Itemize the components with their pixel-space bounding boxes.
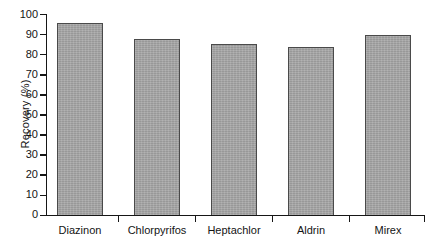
bar-mirex [365,35,411,216]
bar-heptachlor [211,44,257,216]
bar-chart-figure: Recovery (%) 0102030405060708090100 Diaz… [0,0,445,244]
y-axis-tick-label: 50 [4,109,38,120]
y-axis-tick-label: 90 [4,29,38,40]
y-axis-tick-label: 10 [4,189,38,200]
y-axis-tick-label-wrap: 70 [0,69,38,80]
y-axis-tick-label: 80 [4,49,38,60]
y-axis-tick-label-wrap: 90 [0,29,38,40]
y-axis-tick-label-wrap: 80 [0,49,38,60]
y-axis-tick-label: 60 [4,89,38,100]
y-axis-tick-label: 0 [4,209,38,220]
y-axis-tick [40,114,47,115]
y-axis-tick-label-wrap: 60 [0,89,38,100]
y-axis-tick [40,34,47,35]
x-axis-tick [349,215,350,222]
bar-aldrin [288,47,334,216]
y-axis-tick-label: 20 [4,169,38,180]
x-axis-tick-end [424,215,425,222]
y-axis-tick [40,154,47,155]
x-axis-category-label: Mirex [328,224,445,236]
x-axis-tick [118,215,119,222]
y-axis-tick [40,14,47,15]
x-axis-tick [272,215,273,222]
y-axis-tick-label-wrap: 40 [0,129,38,140]
y-axis-tick-label-wrap: 100 [0,9,38,20]
y-axis-tick-label-wrap: 10 [0,189,38,200]
bar-chlorpyrifos [134,39,180,216]
y-axis-tick [40,195,47,196]
y-axis-tick-label-wrap: 20 [0,169,38,180]
y-axis-tick-label-wrap: 0 [0,209,38,220]
y-axis-tick-label: 30 [4,149,38,160]
y-axis-tick [40,174,47,175]
y-axis-tick [40,54,47,55]
y-axis-tick-label-wrap: 30 [0,149,38,160]
y-axis-tick [40,94,47,95]
y-axis-tick-label-wrap: 50 [0,109,38,120]
y-axis-tick [40,74,47,75]
x-axis-line [46,215,425,216]
y-axis-tick-label: 100 [4,9,38,20]
x-axis-tick [195,215,196,222]
y-axis-tick [40,134,47,135]
bar-diazinon [57,23,103,216]
y-axis-tick-label: 70 [4,69,38,80]
y-axis-tick-label: 40 [4,129,38,140]
